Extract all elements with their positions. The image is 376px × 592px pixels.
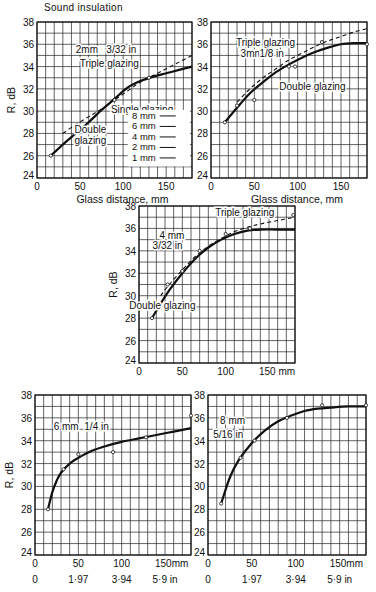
x-tick-label-inch: 3·94 [286, 574, 306, 585]
y-tick-label: 36 [194, 413, 206, 424]
annotation-label: 8 mm [220, 415, 245, 426]
y-tick-label: 26 [194, 527, 206, 538]
x-tick-label: 50 [246, 558, 258, 569]
x-tick-label-inch: 5·9 in [327, 574, 352, 585]
y-tick-label: 32 [194, 459, 206, 470]
chart-8mm: 2426283032343638050100150mm01·973·945·9 … [0, 0, 376, 592]
x-tick-label: 100 [287, 558, 304, 569]
x-tick-label: 0 [205, 558, 211, 569]
x-tick-label: 150mm [330, 558, 363, 569]
y-tick-label: 24 [194, 547, 206, 558]
x-tick-label-inch: 0 [205, 574, 211, 585]
y-tick-label: 30 [194, 481, 206, 492]
annotation-label: 5/16 in [213, 429, 243, 440]
y-tick-label: 34 [194, 436, 206, 447]
x-tick-label-inch: 1·97 [242, 574, 262, 585]
y-tick-label: 28 [194, 504, 206, 515]
y-tick-label: 38 [194, 390, 206, 401]
figure: Sound insulation 24262830323436380501001… [0, 0, 376, 592]
